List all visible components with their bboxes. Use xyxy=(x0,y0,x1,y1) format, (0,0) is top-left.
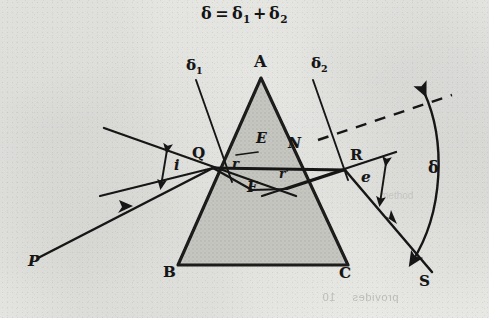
label-source-P: P xyxy=(28,254,39,269)
label-delta2-subscript: 2 xyxy=(321,63,327,74)
label-delta2: δ2 xyxy=(311,56,328,73)
label-angle-e: e xyxy=(361,170,371,185)
label-screen-S: S xyxy=(419,274,430,289)
label-apex-A: A xyxy=(254,54,266,70)
label-vertex-C: C xyxy=(339,266,351,281)
figure-page: provides 10 method δ = δ1 + δ2 xyxy=(0,0,489,318)
deviation-arc xyxy=(412,92,439,262)
label-delta2-symbol: δ xyxy=(311,54,321,72)
angle-e-bracket xyxy=(380,163,386,203)
label-delta1: δ1 xyxy=(186,58,203,75)
label-point-R: R xyxy=(350,148,362,163)
label-foot-F: F xyxy=(247,180,257,194)
label-angle-r-prime: r' xyxy=(279,168,289,180)
label-angle-i: i xyxy=(174,158,179,172)
label-delta1-symbol: δ xyxy=(186,56,196,74)
label-normal-N: N xyxy=(288,136,301,150)
label-deviation-delta: δ xyxy=(428,160,439,176)
label-delta1-subscript: 1 xyxy=(196,65,202,76)
diagram-canvas xyxy=(0,0,489,318)
label-point-Q: Q xyxy=(192,146,205,161)
label-normal-E: E xyxy=(256,131,267,145)
delta2-leader-line xyxy=(313,80,348,180)
label-angle-r: r xyxy=(232,157,239,170)
label-vertex-B: B xyxy=(163,265,176,280)
normal-construction-lower-left xyxy=(100,168,213,196)
emergent-ray xyxy=(345,170,432,272)
